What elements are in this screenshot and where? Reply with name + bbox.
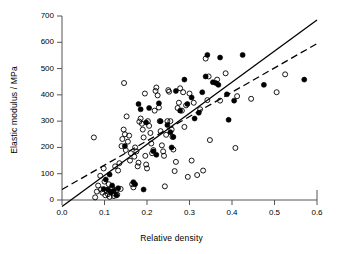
filled-data-point: [171, 134, 176, 139]
open-data-point: [141, 135, 146, 140]
filled-data-point: [302, 77, 307, 82]
y-axis-ticks: [57, 16, 62, 200]
filled-data-point: [185, 102, 190, 107]
x-tick-label: 0.5: [261, 208, 289, 217]
filled-data-point: [136, 102, 141, 107]
open-data-point: [98, 173, 103, 178]
open-data-point: [143, 153, 148, 158]
open-data-point: [124, 114, 129, 119]
y-axis-title: Elastic modulus / MPa: [9, 40, 19, 180]
open-data-point: [116, 168, 121, 173]
open-data-point: [93, 195, 98, 200]
filled-data-point: [114, 193, 119, 198]
open-data-point: [201, 168, 206, 173]
open-data-point: [172, 169, 177, 174]
filled-data-point: [173, 88, 178, 93]
open-data-point: [195, 173, 200, 178]
filled-data-point: [133, 182, 138, 187]
x-tick-label: 0.2: [133, 208, 161, 217]
filled-data-point: [169, 145, 174, 150]
x-tick-label: 0.3: [176, 208, 204, 217]
filled-data-point: [216, 82, 221, 87]
open-data-point: [138, 116, 143, 121]
open-data-point: [223, 71, 228, 76]
filled-data-point: [261, 82, 266, 87]
y-tick-label: 500: [28, 64, 54, 73]
open-data-point: [189, 158, 194, 163]
filled-data-point: [203, 74, 208, 79]
filled-data-point: [224, 92, 229, 97]
open-data-point: [128, 158, 133, 163]
open-data-point: [181, 90, 186, 95]
filled-data-point: [138, 107, 143, 112]
open-data-point: [185, 174, 190, 179]
filled-data-point: [116, 186, 121, 191]
filled-data-point: [189, 95, 194, 100]
open-data-point: [182, 124, 187, 129]
y-tick-label: 700: [28, 11, 54, 20]
axis-lines: [62, 16, 317, 200]
y-tick-label: 200: [28, 142, 54, 151]
x-tick-label: 0.6: [303, 208, 331, 217]
open-data-point: [154, 85, 159, 90]
filled-data-point: [141, 187, 146, 192]
filled-data-point: [182, 77, 187, 82]
open-data-point: [121, 127, 126, 132]
filled-data-point: [154, 152, 159, 157]
x-tick-label: 0.0: [48, 208, 76, 217]
open-data-point: [162, 184, 167, 189]
open-data-point: [91, 135, 96, 140]
open-data-point: [233, 145, 238, 150]
dashed-trend-line: [62, 44, 317, 190]
open-data-point: [274, 90, 279, 95]
open-data-point: [159, 143, 164, 148]
y-tick-label: 100: [28, 169, 54, 178]
open-data-point: [122, 81, 127, 86]
y-tick-label: 300: [28, 116, 54, 125]
filled-data-point: [226, 117, 231, 122]
open-data-point: [283, 72, 288, 77]
open-data-point: [142, 91, 147, 96]
y-tick-label: 400: [28, 90, 54, 99]
y-tick-label: 0: [28, 195, 54, 204]
filled-data-point: [158, 119, 163, 124]
open-data-point: [140, 127, 145, 132]
filled-data-point: [147, 106, 152, 111]
filled-data-point: [144, 120, 149, 125]
open-data-point: [176, 100, 181, 105]
filled-data-point: [178, 108, 183, 113]
filled-data-point: [196, 110, 201, 115]
filled-data-point: [240, 52, 245, 57]
filled-data-point: [110, 183, 115, 188]
y-tick-label: 600: [28, 37, 54, 46]
filled-data-point: [218, 55, 223, 60]
filled-data-point: [122, 144, 127, 149]
filled-data-point: [168, 130, 173, 135]
open-data-point: [125, 139, 130, 144]
filled-data-point: [232, 98, 237, 103]
x-tick-label: 0.4: [218, 208, 246, 217]
open-data-point: [167, 89, 172, 94]
x-tick-label: 0.1: [91, 208, 119, 217]
filled-data-point: [192, 116, 197, 121]
open-data-point: [207, 138, 212, 143]
open-data-point: [249, 96, 254, 101]
x-axis-ticks: [62, 200, 317, 205]
filled-circle-markers: [101, 52, 307, 197]
open-data-point: [101, 166, 106, 171]
filled-data-point: [156, 101, 161, 106]
open-data-point: [155, 93, 160, 98]
filled-data-point: [165, 123, 170, 128]
filled-data-point: [205, 52, 210, 57]
open-data-point: [191, 100, 196, 105]
filled-data-point: [107, 172, 112, 177]
chart-figure: 01002003004005006007000.00.10.20.30.40.5…: [0, 0, 343, 254]
filled-data-point: [200, 90, 205, 95]
x-axis-title: Relative density: [0, 233, 343, 243]
open-data-point: [173, 159, 178, 164]
filled-data-point: [103, 177, 108, 182]
open-data-point: [235, 94, 240, 99]
open-data-point: [132, 154, 137, 159]
open-data-point: [120, 137, 125, 142]
open-data-point: [148, 130, 153, 135]
